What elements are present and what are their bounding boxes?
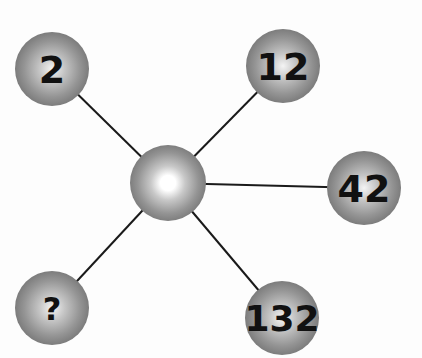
center-sphere-circle	[130, 145, 206, 221]
node-12: 12	[246, 29, 320, 103]
node-label: ?	[43, 290, 62, 328]
node-question: ?	[15, 271, 89, 345]
node-label: 2	[39, 48, 65, 92]
node-label: 42	[338, 167, 391, 211]
node-label: 12	[257, 45, 310, 89]
puzzle-diagram: 21242?132	[0, 0, 422, 358]
node-label: 132	[244, 298, 319, 339]
node-132: 132	[244, 281, 319, 355]
number-nodes: 21242?132	[15, 29, 401, 355]
node-2: 2	[15, 32, 89, 106]
connector-lines	[52, 66, 364, 318]
node-42: 42	[327, 151, 401, 225]
center-sphere	[130, 145, 206, 221]
